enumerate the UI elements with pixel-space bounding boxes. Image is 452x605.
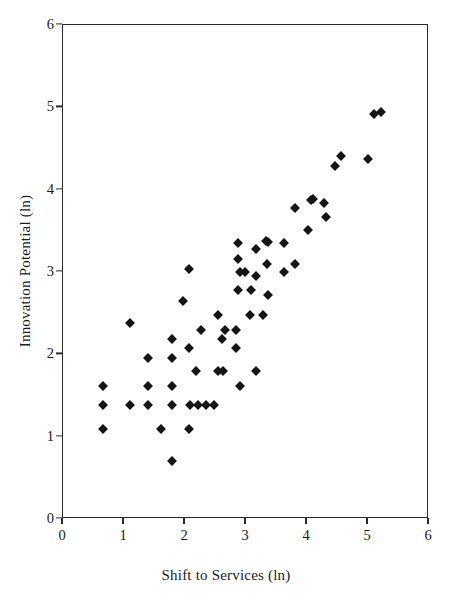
- y-tick-mark: [56, 270, 62, 271]
- x-tick-mark: [244, 518, 245, 524]
- y-tick-mark: [56, 435, 62, 436]
- x-tick-mark: [122, 518, 123, 524]
- x-tick-mark: [61, 518, 62, 524]
- scatter-chart-figure: 0123456 0123456 Shift to Services (ln) I…: [0, 0, 452, 605]
- x-tick-label: 3: [231, 527, 259, 544]
- x-tick-mark: [305, 518, 306, 524]
- y-axis-label: Innovation Potential (ln): [14, 24, 36, 518]
- x-tick-label: 4: [292, 527, 320, 544]
- x-tick-label: 2: [170, 527, 198, 544]
- x-tick-label: 1: [109, 527, 137, 544]
- x-tick-label: 5: [353, 527, 381, 544]
- y-tick-mark: [56, 353, 62, 354]
- y-tick-mark: [56, 188, 62, 189]
- x-tick-mark: [366, 518, 367, 524]
- x-axis-label: Shift to Services (ln): [0, 567, 452, 584]
- x-tick-mark: [183, 518, 184, 524]
- x-tick-label: 6: [414, 527, 442, 544]
- x-tick-mark: [427, 518, 428, 524]
- y-tick-mark: [56, 23, 62, 24]
- x-tick-label: 0: [48, 527, 76, 544]
- y-tick-mark: [56, 106, 62, 107]
